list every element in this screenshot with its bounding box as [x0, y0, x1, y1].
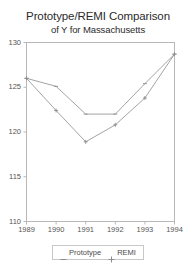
- y-tick-label: 130: [1, 39, 21, 47]
- legend-item-remi: REMI: [108, 249, 136, 257]
- x-tick-label: 1994: [160, 226, 190, 234]
- plot-frame: [27, 43, 175, 222]
- x-tick-label: 1993: [130, 226, 160, 234]
- series-line-prototype: [27, 54, 175, 114]
- series-layer: [25, 52, 177, 144]
- plus-marker-icon: [108, 249, 115, 256]
- series-line-remi: [27, 54, 175, 142]
- x-tick-label: 1992: [100, 226, 130, 234]
- x-tick-label: 1990: [41, 226, 71, 234]
- legend-item-prototype: Prototype: [60, 249, 101, 257]
- y-tick-label: 120: [1, 128, 21, 136]
- legend-label-prototype: Prototype: [69, 249, 101, 257]
- plot-area: 110115120125130 198919901991199219931994: [0, 0, 196, 269]
- y-tick-label: 115: [1, 173, 21, 181]
- y-tick-label: 125: [1, 83, 21, 91]
- chart-legend: Prototype REMI: [52, 245, 144, 260]
- x-tick-label: 1989: [12, 226, 42, 234]
- dash-marker-icon: [60, 249, 67, 256]
- legend-label-remi: REMI: [117, 249, 136, 257]
- chart-root: Prototype/REMI Comparison of Y for Massa…: [0, 0, 196, 269]
- x-tick-label: 1991: [71, 226, 101, 234]
